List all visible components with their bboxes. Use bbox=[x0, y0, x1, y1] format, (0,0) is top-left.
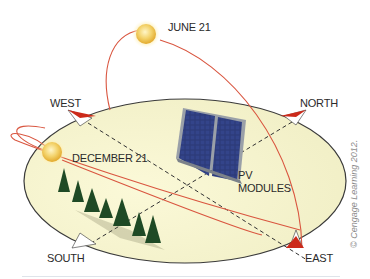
pv-label: PV bbox=[238, 169, 252, 181]
sun-path-diagram: JUNE 21 WEST NORTH DECEMBER 21 PV MODULE… bbox=[0, 0, 370, 279]
june-21-label: JUNE 21 bbox=[168, 21, 211, 33]
june-sun-icon bbox=[132, 20, 160, 48]
december-21-label: DECEMBER 21 bbox=[72, 152, 147, 164]
south-label: SOUTH bbox=[47, 252, 85, 264]
december-sun-icon bbox=[38, 138, 66, 166]
east-label: EAST bbox=[305, 252, 333, 264]
bottom-divider bbox=[22, 276, 340, 277]
copyright-notice: © Cengage Learning 2012. bbox=[349, 140, 359, 248]
west-label: WEST bbox=[50, 97, 81, 109]
north-label: NORTH bbox=[300, 97, 338, 109]
modules-label: MODULES bbox=[238, 182, 291, 194]
